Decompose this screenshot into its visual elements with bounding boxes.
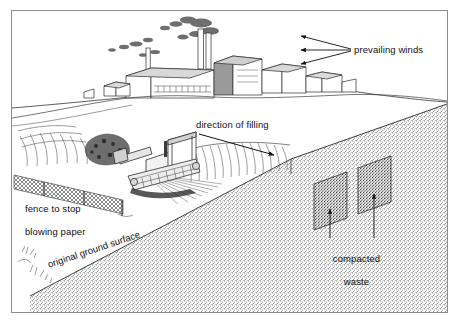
label-direction-of-filling: direction of filling: [196, 119, 269, 131]
label-compacted-waste-line2: waste: [344, 276, 369, 287]
label-litter-fence-line2: blowing paper: [25, 226, 85, 237]
label-compacted-waste-line1: compacted: [333, 253, 380, 264]
label-prevailing-winds: prevailing winds: [354, 44, 423, 56]
prevailing-winds-arrows: [301, 36, 351, 64]
figure-canvas: prevailing winds direction of filling fe…: [0, 0, 470, 333]
industrial-plant: [84, 17, 356, 98]
label-litter-fence-line1: fence to stop: [25, 203, 81, 214]
label-compacted-waste: compacted waste: [315, 241, 387, 299]
label-litter-fence: fence to stop blowing paper: [14, 191, 85, 249]
